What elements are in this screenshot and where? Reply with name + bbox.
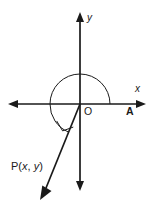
x-axis-left-arrowhead-icon [8, 100, 18, 108]
point-p-label: P(x, y) [11, 161, 43, 172]
origin-label: O [84, 106, 92, 117]
terminal-ray-arrowhead-icon [40, 186, 52, 200]
y-axis-label: y [87, 13, 92, 23]
x-axis-label: x [135, 84, 140, 94]
y-axis-bottom-arrowhead-icon [76, 181, 84, 191]
terminal-ray-op [40, 104, 80, 200]
point-p-suffix: ) [39, 160, 43, 172]
y-axis-top-arrowhead-icon [76, 12, 84, 22]
y-axis [76, 12, 84, 191]
angle-diagram-figure: y x O A P(x, y) [0, 0, 153, 210]
point-p-prefix: P( [11, 160, 22, 172]
point-a-label: A [126, 106, 134, 117]
x-axis-right-arrowhead-icon [136, 100, 146, 108]
terminal-ray-line [46, 104, 80, 188]
